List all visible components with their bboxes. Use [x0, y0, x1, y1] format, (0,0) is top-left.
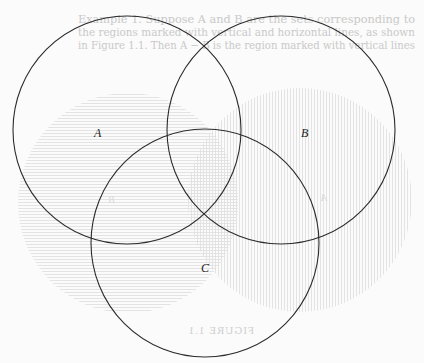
bleed-text-line-1: Example 1. Suppose A and B are the sets … [78, 13, 415, 25]
venn-diagram-canvas: B A FIGURE 1.1 Example 1. Suppose A and … [0, 0, 424, 363]
faint-label-a: A [320, 192, 328, 203]
faint-figure-caption: FIGURE 1.1 [188, 324, 254, 336]
bleed-text-line-3: in Figure 1.1. Then A − B is the region … [78, 39, 415, 51]
faint-label-b: B [109, 194, 115, 205]
bleed-through-layer: B A FIGURE 1.1 [18, 88, 412, 336]
faint-hatched-circle-vertical [188, 88, 412, 312]
bleed-text-line-2: the regions marked with vertical and hor… [78, 26, 415, 38]
set-a-label: A [93, 126, 102, 140]
bleed-through-paragraph: Example 1. Suppose A and B are the sets … [78, 13, 415, 51]
set-b-label: B [301, 126, 309, 140]
set-c-label: C [201, 261, 210, 275]
venn-figure-page: B A FIGURE 1.1 Example 1. Suppose A and … [0, 0, 424, 363]
